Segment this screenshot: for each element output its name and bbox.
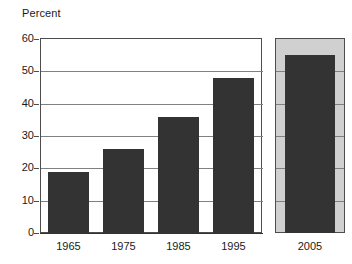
y-axis-tick: 20 bbox=[8, 161, 36, 173]
bar-chart: Percent 0102030405060 196519751985199520… bbox=[0, 0, 352, 264]
y-axis-tick: 60 bbox=[8, 32, 36, 44]
bar bbox=[48, 172, 89, 233]
chart-axis-title: Percent bbox=[22, 7, 61, 19]
y-axis-tick: 50 bbox=[8, 64, 36, 76]
y-axis-tick-mark bbox=[34, 39, 39, 40]
axis-baseline bbox=[40, 233, 263, 234]
y-axis-tick-label: 40 bbox=[8, 97, 34, 109]
projection-bars-group bbox=[276, 39, 344, 233]
bars-group bbox=[41, 39, 261, 233]
y-axis-tick-label: 50 bbox=[8, 64, 34, 76]
y-axis-tick-mark bbox=[34, 104, 39, 105]
y-axis-tick: 10 bbox=[8, 194, 36, 206]
y-axis-tick-label: 0 bbox=[8, 226, 34, 238]
bar bbox=[103, 149, 144, 233]
y-axis-tick-label: 20 bbox=[8, 161, 34, 173]
y-axis-tick-mark bbox=[34, 136, 39, 137]
y-axis-tick-label: 60 bbox=[8, 32, 34, 44]
y-axis-tick: 40 bbox=[8, 97, 36, 109]
y-axis-tick-mark bbox=[34, 201, 39, 202]
x-axis-tick-label: 1995 bbox=[209, 240, 259, 252]
y-axis-tick: 0 bbox=[8, 226, 36, 238]
projection-bar bbox=[285, 55, 335, 233]
x-axis-tick-label: 1965 bbox=[44, 240, 94, 252]
bar bbox=[158, 117, 199, 233]
y-axis-tick-mark bbox=[34, 71, 39, 72]
y-axis-tick-label: 30 bbox=[8, 129, 34, 141]
y-axis-tick-mark bbox=[34, 233, 39, 234]
bar bbox=[213, 78, 254, 233]
y-axis-tick-mark bbox=[34, 168, 39, 169]
y-axis-tick: 30 bbox=[8, 129, 36, 141]
y-axis-tick-label: 10 bbox=[8, 194, 34, 206]
x-axis-tick-label: 2005 bbox=[285, 240, 335, 252]
x-axis-tick-label: 1975 bbox=[99, 240, 149, 252]
x-axis-tick-label: 1985 bbox=[154, 240, 204, 252]
